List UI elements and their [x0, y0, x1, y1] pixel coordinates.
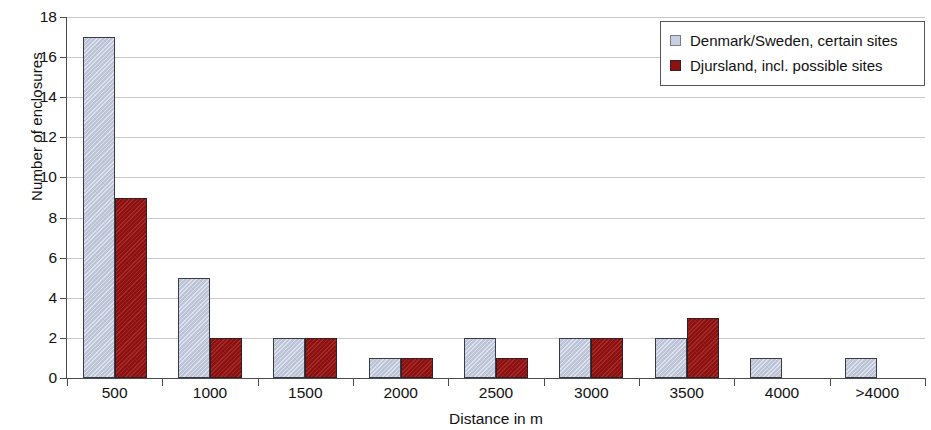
legend-label-series-b: Djursland, incl. possible sites — [690, 57, 883, 74]
bar — [845, 358, 877, 378]
y-tick-mark — [60, 258, 67, 259]
x-tick-mark — [162, 378, 163, 386]
y-tick-label: 2 — [48, 329, 57, 347]
y-tick-label: 0 — [48, 369, 57, 387]
y-tick-label: 10 — [40, 168, 57, 186]
x-tick-label: 3000 — [574, 384, 608, 402]
x-tick-mark — [639, 378, 640, 386]
bar — [210, 338, 242, 378]
y-tick-label: 8 — [48, 209, 57, 227]
x-axis-title: Distance in m — [67, 410, 925, 428]
x-tick-label: 4000 — [765, 384, 799, 402]
y-axis-line — [66, 17, 67, 379]
bar — [559, 338, 591, 378]
legend-item: Denmark/Sweden, certain sites — [670, 28, 916, 53]
gridline — [67, 17, 925, 18]
x-tick-mark — [734, 378, 735, 386]
bar — [655, 338, 687, 378]
x-tick-mark — [544, 378, 545, 386]
legend-swatch-series-b-icon — [670, 60, 681, 71]
y-tick-mark — [60, 378, 67, 379]
x-tick-mark — [925, 378, 926, 386]
y-tick-label: 12 — [40, 128, 57, 146]
x-axis-line — [66, 378, 925, 379]
x-tick-mark — [258, 378, 259, 386]
x-tick-label: 2500 — [479, 384, 513, 402]
bar-chart: Number of enclosures 024681012141618 500… — [0, 0, 931, 430]
y-tick-mark — [60, 57, 67, 58]
legend-item: Djursland, incl. possible sites — [670, 53, 916, 78]
gridline — [67, 97, 925, 98]
y-tick-label: 14 — [40, 88, 57, 106]
y-tick-label: 18 — [40, 8, 57, 26]
chart-legend: Denmark/Sweden, certain sites Djursland,… — [660, 21, 925, 86]
y-tick-mark — [60, 17, 67, 18]
bar — [369, 358, 401, 378]
x-tick-mark — [67, 378, 68, 386]
x-tick-label: 1000 — [193, 384, 227, 402]
y-tick-label: 16 — [40, 48, 57, 66]
y-tick-mark — [60, 338, 67, 339]
x-tick-label: 500 — [102, 384, 128, 402]
gridline — [67, 177, 925, 178]
legend-label-series-a: Denmark/Sweden, certain sites — [690, 32, 898, 49]
y-tick-label: 6 — [48, 249, 57, 267]
x-tick-label: 2000 — [383, 384, 417, 402]
legend-swatch-series-a-icon — [670, 35, 681, 46]
bar — [464, 338, 496, 378]
y-tick-label: 4 — [48, 289, 57, 307]
x-tick-mark — [353, 378, 354, 386]
y-tick-mark — [60, 298, 67, 299]
gridline — [67, 258, 925, 259]
bar — [687, 318, 719, 378]
y-tick-mark — [60, 218, 67, 219]
y-tick-mark — [60, 177, 67, 178]
x-tick-label: 3500 — [669, 384, 703, 402]
gridline — [67, 218, 925, 219]
y-tick-mark — [60, 97, 67, 98]
bar — [273, 338, 305, 378]
x-tick-mark — [830, 378, 831, 386]
y-axis-title: Number of enclosures — [28, 7, 45, 247]
bar — [496, 358, 528, 378]
bar — [305, 338, 337, 378]
x-tick-label: 1500 — [288, 384, 322, 402]
y-tick-mark — [60, 137, 67, 138]
bar — [83, 37, 115, 378]
gridline — [67, 137, 925, 138]
bar — [178, 278, 210, 378]
bar — [401, 358, 433, 378]
x-tick-label: >4000 — [856, 384, 900, 402]
bar — [115, 198, 147, 379]
bar — [591, 338, 623, 378]
x-tick-mark — [448, 378, 449, 386]
bar — [750, 358, 782, 378]
